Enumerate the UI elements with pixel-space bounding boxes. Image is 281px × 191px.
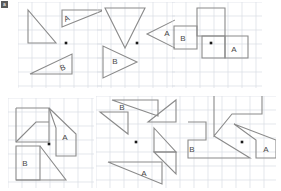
- shape-polygon-a-region: [49, 108, 76, 156]
- figure-corner-mark: a: [1, 1, 8, 8]
- shape-label-a: A: [164, 29, 170, 38]
- center-of-rotation-dot: [65, 42, 68, 45]
- shape-label-b: B: [119, 103, 124, 112]
- center-of-rotation-dot: [135, 141, 138, 144]
- shape-triangle-a-left: [147, 18, 175, 50]
- shape-label-b: B: [22, 159, 27, 168]
- shape-label-a: A: [263, 145, 269, 154]
- shape-square-b: [16, 146, 40, 180]
- shape-polygon-b-left: [188, 122, 250, 158]
- panel-bottom-right-polygon: BA: [180, 96, 276, 188]
- shape-triangle-bottom-right: [154, 152, 176, 174]
- center-of-rotation-dot: [136, 42, 139, 45]
- center-of-rotation-dot: [210, 42, 213, 45]
- shape-label-b: B: [189, 145, 194, 154]
- panel-bottom-center-triangles: BA: [96, 96, 180, 188]
- shape-label-b: B: [112, 57, 117, 66]
- shape-polygon-a-right: [234, 124, 276, 158]
- shape-label-a: A: [141, 169, 147, 178]
- panel-grid-lines: [8, 98, 94, 188]
- shape-label-a: A: [62, 133, 68, 142]
- shape-square-top: [197, 8, 225, 36]
- shape-notch-diagonal-upper: [16, 122, 49, 142]
- panel-top-center-triangles: AB: [97, 2, 175, 88]
- center-of-rotation-dot: [48, 143, 51, 146]
- center-of-rotation-dot: [241, 141, 244, 144]
- shape-square-a: [202, 36, 225, 58]
- shape-triangle-b-right: [103, 46, 137, 78]
- panel-top-right-squares: BA: [172, 2, 262, 88]
- panel-bottom-left-polygon: AB: [8, 98, 94, 188]
- shape-polygon-top-block: [214, 96, 262, 136]
- panel-grid-lines: [18, 2, 102, 88]
- shape-label-b: B: [180, 34, 185, 43]
- shape-label-a: A: [63, 13, 72, 24]
- shape-label-a: A: [231, 45, 237, 54]
- shape-triangle-right-lower: [154, 128, 176, 152]
- shape-triangle-a-bottom: [108, 162, 162, 184]
- figure-canvas: a ABABBAABBABA: [0, 0, 281, 191]
- panel-top-left-triangles: AB: [18, 2, 102, 88]
